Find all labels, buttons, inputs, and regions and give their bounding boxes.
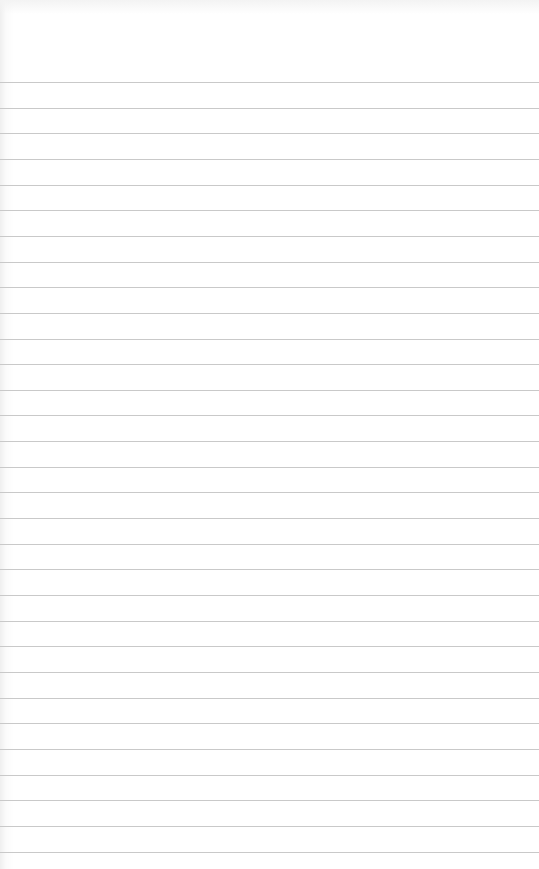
rule-line bbox=[0, 826, 539, 827]
rule-line bbox=[0, 672, 539, 673]
rule-line bbox=[0, 159, 539, 160]
rule-line bbox=[0, 82, 539, 83]
rule-line bbox=[0, 313, 539, 314]
top-shade bbox=[0, 0, 539, 14]
rule-line bbox=[0, 210, 539, 211]
rule-line bbox=[0, 595, 539, 596]
rule-line bbox=[0, 800, 539, 801]
rule-line bbox=[0, 467, 539, 468]
rule-line bbox=[0, 518, 539, 519]
rule-line bbox=[0, 852, 539, 853]
rule-line bbox=[0, 390, 539, 391]
rule-line bbox=[0, 262, 539, 263]
rule-line bbox=[0, 749, 539, 750]
rule-line bbox=[0, 544, 539, 545]
rule-line bbox=[0, 185, 539, 186]
rule-line bbox=[0, 492, 539, 493]
rule-line bbox=[0, 723, 539, 724]
ruled-paper bbox=[0, 0, 539, 869]
rule-line bbox=[0, 287, 539, 288]
rule-line bbox=[0, 108, 539, 109]
rule-line bbox=[0, 236, 539, 237]
rule-line bbox=[0, 339, 539, 340]
rule-line bbox=[0, 621, 539, 622]
rule-line bbox=[0, 569, 539, 570]
rule-line bbox=[0, 698, 539, 699]
rule-line bbox=[0, 415, 539, 416]
rule-line bbox=[0, 646, 539, 647]
rule-line bbox=[0, 775, 539, 776]
rule-line bbox=[0, 441, 539, 442]
rule-line bbox=[0, 364, 539, 365]
rule-line bbox=[0, 133, 539, 134]
